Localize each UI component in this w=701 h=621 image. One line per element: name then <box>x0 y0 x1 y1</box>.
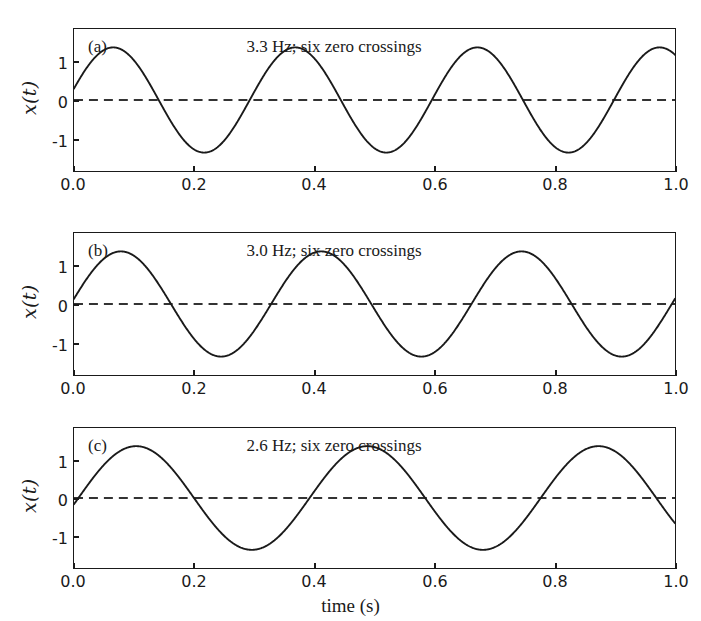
y-tick-label-b-neg1: -1 <box>38 338 68 354</box>
y-tick-label-c-neg1: -1 <box>38 531 68 547</box>
y-tick-label-b-1: 1 <box>38 260 68 276</box>
y-axis-label-b: x(t) <box>18 289 40 319</box>
y-tickmark-b-neg1 <box>73 343 79 345</box>
x-tick-label-a-0: 0.0 <box>49 177 97 193</box>
x-tickmark-b-3 <box>434 370 436 376</box>
x-tick-label-b-3: 0.6 <box>411 381 459 397</box>
panel-annotation-b: 3.0 Hz; six zero crossings <box>184 242 484 259</box>
x-tick-label-a-3: 0.6 <box>411 177 459 193</box>
x-tickmark-c-3 <box>434 563 436 569</box>
x-tick-label-a-2: 0.4 <box>290 177 338 193</box>
x-tickmark-b-2 <box>314 370 316 376</box>
x-tickmark-c-2 <box>314 563 316 569</box>
panel-c: (c) 2.6 Hz; six zero crossings x(t) 1 0 … <box>0 399 701 621</box>
y-tick-label-c-0: 0 <box>38 493 68 509</box>
x-tick-label-b-2: 0.4 <box>290 381 338 397</box>
y-axis-label-c: x(t) <box>18 483 40 513</box>
x-tickmark-b-1 <box>193 370 195 376</box>
y-tickmark-c-0 <box>73 498 79 500</box>
x-tick-label-a-4: 0.8 <box>531 177 579 193</box>
x-tick-label-c-3: 0.6 <box>411 574 459 590</box>
x-tickmark-c-4 <box>555 563 557 569</box>
panel-annotation-c: 2.6 Hz; six zero crossings <box>184 437 484 454</box>
panel-label-b: (b) <box>88 242 108 259</box>
x-tickmark-a-2 <box>314 166 316 172</box>
panel-label-c: (c) <box>88 437 107 454</box>
x-tick-label-b-1: 0.2 <box>170 381 218 397</box>
y-tickmark-c-neg1 <box>73 536 79 538</box>
x-tickmark-a-3 <box>434 166 436 172</box>
x-tickmark-b-0 <box>73 370 75 376</box>
x-tick-label-c-5: 1.0 <box>652 574 700 590</box>
panel-a: (a) 3.3 Hz; six zero crossings x(t) 1 0 … <box>0 0 701 205</box>
panel-label-a: (a) <box>88 38 107 55</box>
y-tickmark-c-1 <box>73 460 79 462</box>
figure-canvas: (a) 3.3 Hz; six zero crossings x(t) 1 0 … <box>0 0 701 621</box>
y-tickmark-b-0 <box>73 304 79 306</box>
x-tickmark-a-5 <box>675 166 677 172</box>
y-tickmark-a-neg1 <box>73 139 79 141</box>
y-tick-label-a-1: 1 <box>38 56 68 72</box>
x-tick-label-b-5: 1.0 <box>652 381 700 397</box>
x-tickmark-c-0 <box>73 563 75 569</box>
panel-b: (b) 3.0 Hz; six zero crossings x(t) 1 0 … <box>0 204 701 409</box>
x-tick-label-a-5: 1.0 <box>652 177 700 193</box>
y-tick-label-c-1: 1 <box>38 455 68 471</box>
panel-annotation-a: 3.3 Hz; six zero crossings <box>184 38 484 55</box>
x-tick-label-a-1: 0.2 <box>170 177 218 193</box>
x-axis-label: time (s) <box>0 595 701 617</box>
x-tick-label-c-4: 0.8 <box>531 574 579 590</box>
x-tickmark-c-5 <box>675 563 677 569</box>
x-tick-label-c-2: 0.4 <box>290 574 338 590</box>
x-tick-label-c-0: 0.0 <box>49 574 97 590</box>
y-tick-label-a-0: 0 <box>38 95 68 111</box>
y-tickmark-a-0 <box>73 100 79 102</box>
y-tick-label-b-0: 0 <box>38 299 68 315</box>
x-tick-label-b-4: 0.8 <box>531 381 579 397</box>
x-tickmark-b-5 <box>675 370 677 376</box>
x-tickmark-a-1 <box>193 166 195 172</box>
x-tickmark-c-1 <box>193 563 195 569</box>
y-tickmark-a-1 <box>73 61 79 63</box>
x-tickmark-b-4 <box>555 370 557 376</box>
x-tickmark-a-4 <box>555 166 557 172</box>
x-tick-label-c-1: 0.2 <box>170 574 218 590</box>
y-axis-label-a: x(t) <box>18 85 40 115</box>
y-tickmark-b-1 <box>73 265 79 267</box>
y-tick-label-a-neg1: -1 <box>38 134 68 150</box>
x-tick-label-b-0: 0.0 <box>49 381 97 397</box>
x-tickmark-a-0 <box>73 166 75 172</box>
